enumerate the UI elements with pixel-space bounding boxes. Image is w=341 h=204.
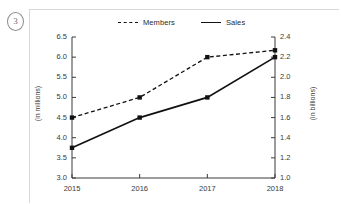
data-point-marker-members (70, 115, 74, 119)
data-point-marker-sales (205, 95, 209, 99)
data-point-marker-members (273, 48, 277, 52)
x-tick-label: 2016 (123, 184, 157, 193)
data-point-marker-sales (70, 146, 74, 150)
right-tick-label: 1.6 (280, 113, 302, 122)
left-tick-label: 6.5 (45, 32, 67, 41)
plot-area: (in millions) (in billions) 3.03.54.04.5… (0, 0, 341, 204)
left-axis-title: (in millions) (34, 64, 41, 144)
data-point-marker-sales (137, 115, 141, 119)
x-tick-label: 2017 (190, 184, 224, 193)
data-point-marker-members (205, 55, 209, 59)
right-tick-label: 2.4 (280, 32, 302, 41)
left-tick-label: 4.5 (45, 113, 67, 122)
right-tick-label: 1.2 (280, 153, 302, 162)
right-axis-title: (in billions) (309, 64, 316, 144)
series-layer (70, 48, 277, 150)
right-tick-label: 2.0 (280, 72, 302, 81)
right-tick-label: 1.8 (280, 92, 302, 101)
right-tick-label: 2.2 (280, 52, 302, 61)
figure: 3 Members Sales (in millions) (in billio… (0, 0, 341, 204)
right-tick-label: 1.4 (280, 133, 302, 142)
left-tick-label: 4.0 (45, 133, 67, 142)
x-tick-label: 2015 (55, 184, 89, 193)
series-line-sales (72, 57, 275, 148)
right-tick-label: 1.0 (280, 173, 302, 182)
data-point-marker-members (137, 95, 141, 99)
data-point-marker-sales (273, 55, 277, 59)
x-tick-label: 2018 (258, 184, 292, 193)
left-tick-label: 5.5 (45, 72, 67, 81)
left-tick-label: 3.0 (45, 173, 67, 182)
left-tick-label: 6.0 (45, 52, 67, 61)
left-tick-label: 3.5 (45, 153, 67, 162)
left-tick-label: 5.0 (45, 92, 67, 101)
